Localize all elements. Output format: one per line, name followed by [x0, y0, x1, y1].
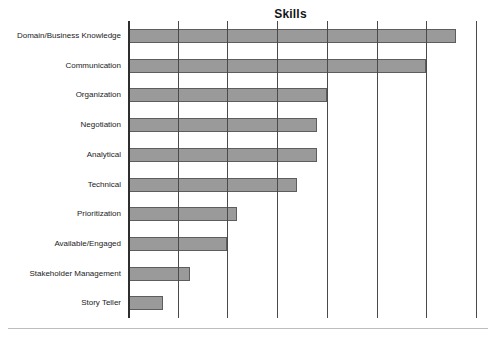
category-label: Prioritization: [0, 199, 124, 229]
y-axis-line: [128, 21, 130, 318]
bar: [128, 207, 237, 221]
gridline: [277, 21, 278, 318]
gridline: [476, 21, 477, 318]
bar-row: [128, 110, 475, 140]
gridline: [327, 21, 328, 318]
bar-row: [128, 259, 475, 289]
category-axis-labels: Domain/Business KnowledgeCommunicationOr…: [0, 21, 124, 318]
bar: [128, 296, 163, 310]
category-label: Domain/Business Knowledge: [0, 21, 124, 51]
bar-row: [128, 140, 475, 170]
bar: [128, 148, 317, 162]
category-label: Analytical: [0, 140, 124, 170]
bar: [128, 118, 317, 132]
category-label: Available/Engaged: [0, 229, 124, 259]
bar-row: [128, 80, 475, 110]
bar-row: [128, 288, 475, 318]
category-label: Communication: [0, 51, 124, 81]
gridline: [377, 21, 378, 318]
bar-row: [128, 51, 475, 81]
gridline: [426, 21, 427, 318]
category-label: Negotiation: [0, 110, 124, 140]
gridline: [178, 21, 179, 318]
category-label: Organization: [0, 80, 124, 110]
category-label: Stakeholder Management: [0, 259, 124, 289]
bar-series: [128, 21, 475, 318]
bar-row: [128, 170, 475, 200]
gridline: [227, 21, 228, 318]
bar-row: [128, 21, 475, 51]
bar: [128, 267, 190, 281]
category-label: Story Teller: [0, 288, 124, 318]
category-label: Technical: [0, 170, 124, 200]
bar: [128, 178, 297, 192]
chart-title: Skills: [0, 7, 495, 21]
plot-area: [128, 21, 475, 318]
bottom-divider: [8, 328, 488, 329]
bar-row: [128, 229, 475, 259]
bar-row: [128, 199, 475, 229]
chart-screenshot: Skills Domain/Business KnowledgeCommunic…: [0, 0, 495, 338]
